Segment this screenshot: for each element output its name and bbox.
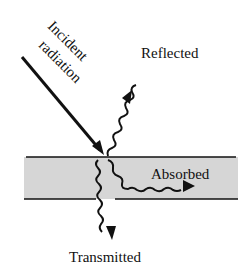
reflected-label: Reflected (141, 45, 199, 61)
transmitted-arrowhead-icon (106, 226, 116, 240)
radiation-diagram: Incident radiation Reflected Absorbed Tr… (0, 0, 249, 271)
absorbed-label: Absorbed (151, 166, 210, 182)
diagram-canvas: Incident radiation Reflected Absorbed Tr… (0, 0, 249, 271)
reflected-wave (108, 85, 137, 156)
reflected-arrow (108, 85, 137, 156)
transmitted-label: Transmitted (69, 249, 141, 265)
